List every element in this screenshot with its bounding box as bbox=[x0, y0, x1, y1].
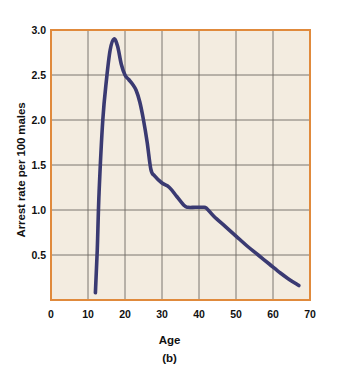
y-tick-label: 2.0 bbox=[14, 114, 46, 126]
figure-caption: (b) bbox=[0, 352, 339, 364]
x-axis-label: Age bbox=[0, 334, 339, 346]
figure-container: Arrest rate per 100 males Age (b) 0.51.0… bbox=[0, 0, 339, 378]
x-tick-label: 20 bbox=[119, 308, 131, 320]
x-tick-label: 10 bbox=[82, 308, 94, 320]
x-tick-label: 50 bbox=[230, 308, 242, 320]
x-tick-label: 60 bbox=[267, 308, 279, 320]
y-tick-label: 2.5 bbox=[14, 69, 46, 81]
x-tick-label: 70 bbox=[304, 308, 316, 320]
y-tick-label: 3.0 bbox=[14, 24, 46, 36]
y-tick-label: 1.5 bbox=[14, 159, 46, 171]
x-tick-label: 40 bbox=[193, 308, 205, 320]
y-tick-label: 0.5 bbox=[14, 249, 46, 261]
x-tick-label: 30 bbox=[156, 308, 168, 320]
chart-canvas bbox=[0, 0, 339, 378]
x-tick-label: 0 bbox=[48, 308, 54, 320]
y-tick-label: 1.0 bbox=[14, 204, 46, 216]
